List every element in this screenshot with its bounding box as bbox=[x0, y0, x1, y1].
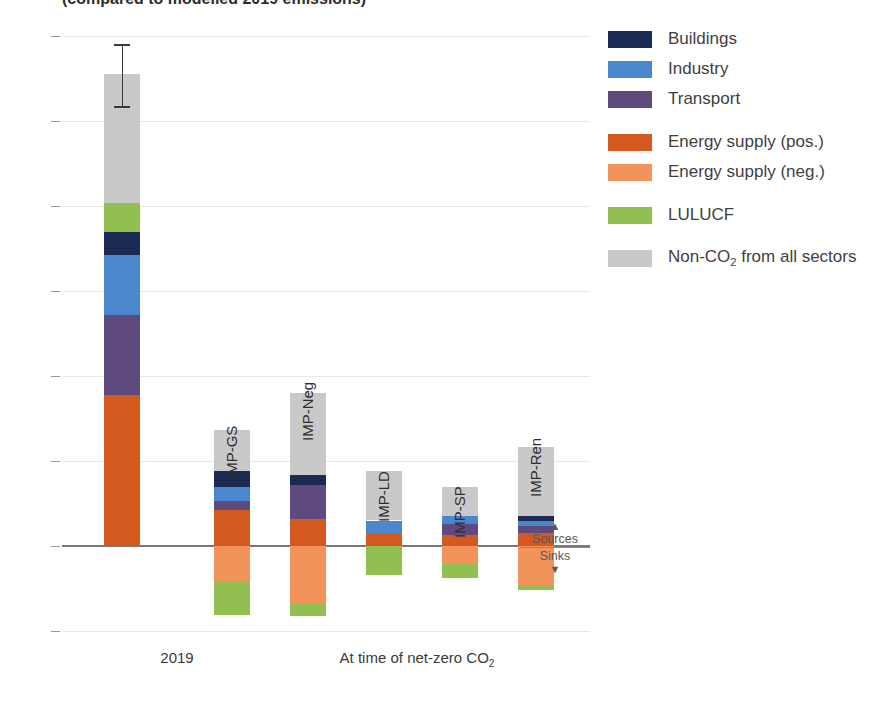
legend-swatch-lulucf bbox=[608, 207, 652, 224]
bar-segment-industry[interactable] bbox=[214, 487, 250, 501]
bar-label-imp-gs: IMP-GS bbox=[223, 426, 240, 479]
legend-label-energy_pos: Energy supply (pos.) bbox=[668, 132, 824, 152]
bar-segment-energy_neg[interactable] bbox=[290, 546, 326, 603]
gridline bbox=[62, 206, 590, 207]
legend-swatch-energy_pos bbox=[608, 134, 652, 151]
bar-imp-gs[interactable] bbox=[214, 36, 250, 631]
bar-segment-energy_pos[interactable] bbox=[290, 519, 326, 546]
legend-label-nonco2: Non-CO2 from all sectors bbox=[668, 247, 856, 268]
legend-item-buildings[interactable]: Buildings bbox=[608, 24, 893, 54]
bar-segment-transport[interactable] bbox=[104, 315, 140, 395]
zero-axis-line bbox=[62, 545, 590, 547]
legend-label-lulucf: LULUCF bbox=[668, 205, 734, 225]
y-axis-tick-mark bbox=[51, 631, 60, 632]
legend-swatch-buildings bbox=[608, 31, 652, 48]
legend-label-industry: Industry bbox=[668, 59, 728, 79]
sources-label: Sources bbox=[520, 532, 590, 546]
bar-label-imp-neg: IMP-Neg bbox=[299, 382, 316, 441]
legend-spacer bbox=[608, 114, 893, 127]
legend-label-buildings: Buildings bbox=[668, 29, 737, 49]
bar-segment-energy_neg[interactable] bbox=[442, 546, 478, 563]
down-arrow-icon: ▼ bbox=[520, 564, 590, 575]
bar-2019[interactable] bbox=[104, 36, 140, 631]
x-axis-category-label: 2019 bbox=[122, 649, 232, 666]
legend-item-industry[interactable]: Industry bbox=[608, 54, 893, 84]
y-axis-tick-mark bbox=[51, 121, 60, 122]
y-axis-tick-mark bbox=[51, 291, 60, 292]
bar-label-imp-sp: IMP-SP bbox=[451, 486, 468, 538]
bar-imp-sp[interactable] bbox=[442, 36, 478, 631]
sinks-label: Sinks bbox=[520, 549, 590, 563]
y-axis-tick-mark bbox=[51, 376, 60, 377]
legend-swatch-energy_neg bbox=[608, 164, 652, 181]
x-axis-category-label: At time of net-zero CO2 bbox=[252, 649, 582, 669]
bar-segment-energy_pos[interactable] bbox=[214, 510, 250, 546]
y-axis-tick-mark bbox=[51, 36, 60, 37]
legend-item-energy_pos[interactable]: Energy supply (pos.) bbox=[608, 127, 893, 157]
legend-item-nonco2[interactable]: Non-CO2 from all sectors bbox=[608, 243, 893, 273]
legend-item-lulucf[interactable]: LULUCF bbox=[608, 200, 893, 230]
bar-segment-lulucf[interactable] bbox=[442, 563, 478, 578]
bar-segment-lulucf[interactable] bbox=[104, 203, 140, 232]
up-arrow-icon: ▲ bbox=[520, 521, 590, 532]
y-axis-tick-mark bbox=[51, 461, 60, 462]
bar-segment-industry[interactable] bbox=[366, 521, 402, 534]
legend-swatch-nonco2 bbox=[608, 250, 652, 267]
legend: BuildingsIndustryTransportEnergy supply … bbox=[608, 24, 893, 273]
bar-segment-lulucf[interactable] bbox=[366, 546, 402, 575]
error-bar-line bbox=[122, 44, 123, 106]
bar-segment-industry[interactable] bbox=[104, 255, 140, 315]
bar-segment-energy_pos[interactable] bbox=[104, 395, 140, 546]
gridline bbox=[62, 461, 590, 462]
gridline bbox=[62, 121, 590, 122]
legend-spacer bbox=[608, 230, 893, 243]
legend-swatch-industry bbox=[608, 61, 652, 78]
bar-segment-lulucf[interactable] bbox=[290, 603, 326, 616]
figure-caption: (compared to modelled 2019 emissions) bbox=[62, 0, 366, 8]
sources-sinks-annotation: ▲ Sources Sinks ▼ bbox=[520, 521, 590, 575]
bar-segment-energy_pos[interactable] bbox=[366, 533, 402, 546]
gridline bbox=[62, 291, 590, 292]
error-bar-cap-lower bbox=[114, 106, 130, 108]
bar-segment-transport[interactable] bbox=[290, 485, 326, 519]
bar-segment-lulucf[interactable] bbox=[518, 585, 554, 590]
divider bbox=[520, 547, 590, 548]
bar-segment-energy_neg[interactable] bbox=[214, 546, 250, 582]
bar-label-imp-ld: IMP-LD bbox=[375, 471, 392, 522]
legend-label-transport: Transport bbox=[668, 89, 740, 109]
bar-segment-lulucf[interactable] bbox=[214, 582, 250, 615]
gridline bbox=[62, 631, 590, 632]
legend-spacer bbox=[608, 187, 893, 200]
y-axis-tick-mark bbox=[51, 206, 60, 207]
bar-label-imp-ren: IMP-Ren bbox=[527, 438, 544, 497]
bar-segment-buildings[interactable] bbox=[104, 232, 140, 255]
legend-swatch-transport bbox=[608, 91, 652, 108]
legend-item-transport[interactable]: Transport bbox=[608, 84, 893, 114]
bar-segment-buildings[interactable] bbox=[290, 475, 326, 485]
y-axis-tick-mark bbox=[51, 546, 60, 547]
chart-figure: (compared to modelled 2019 emissions) 60… bbox=[0, 0, 893, 702]
gridline bbox=[62, 36, 590, 37]
gridline bbox=[62, 376, 590, 377]
plot-area: 6050403020100–10IMP-GSIMP-NegIMP-LDIMP-S… bbox=[62, 36, 590, 631]
bar-segment-transport[interactable] bbox=[214, 501, 250, 510]
bar-imp-ld[interactable] bbox=[366, 36, 402, 631]
bar-imp-neg[interactable] bbox=[290, 36, 326, 631]
error-bar-cap-upper bbox=[114, 44, 130, 46]
legend-item-energy_neg[interactable]: Energy supply (neg.) bbox=[608, 157, 893, 187]
legend-label-energy_neg: Energy supply (neg.) bbox=[668, 162, 825, 182]
